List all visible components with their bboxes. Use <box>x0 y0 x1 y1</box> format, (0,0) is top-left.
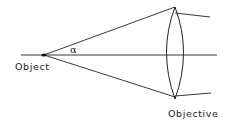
objective-lens <box>167 7 184 99</box>
upper-ray <box>44 7 175 55</box>
object-label: Object <box>15 61 50 72</box>
object-point <box>41 53 46 56</box>
objective-label: Objective <box>168 108 218 119</box>
lower-ray <box>44 55 175 97</box>
upper-exit-ray <box>175 13 210 17</box>
angle-label: α <box>70 44 77 55</box>
ray-diagram: α Object Objective <box>0 0 227 126</box>
lower-exit-ray <box>175 93 211 96</box>
